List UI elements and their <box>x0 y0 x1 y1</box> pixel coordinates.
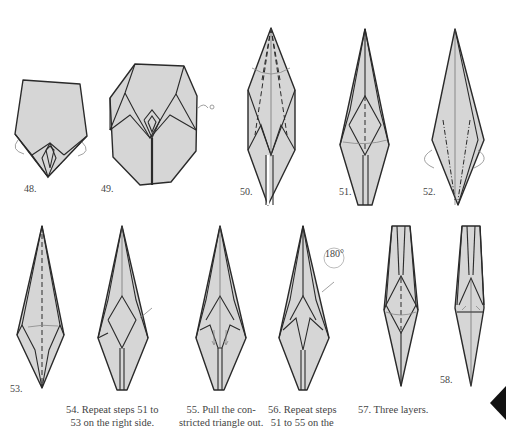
rotation-label: 180° <box>325 248 344 259</box>
step-number-50: 50. <box>240 186 253 197</box>
step-55-caption: 55. Pull the con- stricted triangle out. <box>179 403 263 429</box>
step-number-48: 48. <box>24 183 37 194</box>
step-48-diagram <box>15 80 87 177</box>
step-50-diagram <box>248 28 295 205</box>
step-57-diagram <box>384 226 418 386</box>
step-55-diagram <box>196 226 246 390</box>
step-49-diagram <box>110 64 214 185</box>
step-54-diagram <box>98 226 152 390</box>
page-tab-marker <box>490 386 506 420</box>
step-number-51: 51. <box>339 186 352 197</box>
step-53-diagram <box>17 226 64 388</box>
step-number-52: 52. <box>423 186 436 197</box>
step-56-caption: 56. Repeat steps 51 to 55 on the <box>268 403 337 429</box>
step-52-diagram <box>424 29 484 205</box>
step-58-diagram <box>455 226 484 386</box>
step-54-caption: 54. Repeat steps 51 to 53 on the right s… <box>66 403 158 429</box>
step-51-diagram <box>340 29 389 205</box>
step-number-53: 53. <box>10 383 23 394</box>
step-number-58: 58. <box>440 374 453 385</box>
step-number-49: 49. <box>101 183 114 194</box>
step-57-caption: 57. Three layers. <box>358 403 428 416</box>
